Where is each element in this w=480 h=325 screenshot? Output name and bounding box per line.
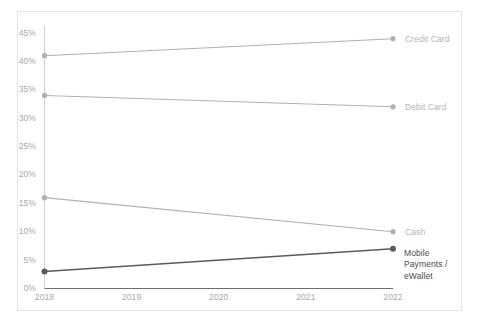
x-tick-label-2020: 2020 <box>197 292 241 302</box>
y-tick-label-40pct: 40% <box>8 56 36 66</box>
x-tick-label-2018: 2018 <box>23 292 67 302</box>
series-layer <box>42 36 397 274</box>
data-point-credit-card-2022[interactable] <box>390 36 395 41</box>
data-point-mobile-payments-ewallet-2022[interactable] <box>390 246 396 252</box>
data-point-debit-card-2022[interactable] <box>390 104 395 109</box>
series-label-debit-card: Debit Card <box>405 102 447 114</box>
series-line-cash <box>45 198 394 232</box>
data-point-debit-card-2018[interactable] <box>42 93 47 98</box>
series-line-debit-card <box>45 95 394 106</box>
series-label-mobile-payments-ewallet: Mobile Payments / eWallet <box>404 248 448 283</box>
y-tick-label-20pct: 20% <box>8 169 36 179</box>
series-label-credit-card: Credit Card <box>405 34 450 46</box>
y-tick-label-45pct: 45% <box>8 28 36 38</box>
data-point-cash-2018[interactable] <box>42 195 47 200</box>
y-tick-label-25pct: 25% <box>8 141 36 151</box>
series-line-credit-card <box>45 39 394 56</box>
data-point-credit-card-2018[interactable] <box>42 53 47 58</box>
y-tick-label-5pct: 5% <box>8 255 36 265</box>
series-label-cash: Cash <box>405 227 425 239</box>
y-tick-label-30pct: 30% <box>8 113 36 123</box>
line-chart: 45%40%35%30%25%20%15%10%5%0% 20182019202… <box>0 0 480 325</box>
data-point-cash-2022[interactable] <box>390 229 395 234</box>
x-tick-label-2021: 2021 <box>284 292 328 302</box>
x-tick-label-2022: 2022 <box>371 292 415 302</box>
y-tick-label-15pct: 15% <box>8 198 36 208</box>
y-tick-label-10pct: 10% <box>8 226 36 236</box>
y-tick-label-35pct: 35% <box>8 84 36 94</box>
x-tick-label-2019: 2019 <box>110 292 154 302</box>
series-line-mobile-payments-ewallet <box>45 249 394 272</box>
data-point-mobile-payments-ewallet-2018[interactable] <box>42 268 48 274</box>
